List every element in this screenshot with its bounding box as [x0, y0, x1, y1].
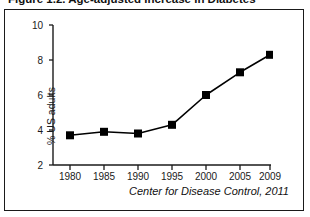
- x-tick-label-2009: 2009: [252, 171, 288, 182]
- chart-plot-svg: [49, 18, 273, 170]
- data-point-2005: [236, 68, 244, 76]
- x-tick-label-1980: 1980: [52, 171, 88, 182]
- plot-area: % US adults 10 8 6 4 2 1980 1985 1990 19…: [49, 18, 273, 168]
- source-caption: Center for Disease Control, 2011: [129, 185, 289, 198]
- data-point-1990: [134, 130, 142, 138]
- series-markers: [66, 51, 273, 140]
- y-tick-label-10: 10: [23, 20, 43, 31]
- x-tick-label-1990: 1990: [120, 171, 156, 182]
- y-tick-label-6: 6: [23, 90, 43, 101]
- figure-title: Figure 1.2. Age-adjusted increase in Dia…: [8, 0, 308, 7]
- y-tick-label-8: 8: [23, 55, 43, 66]
- x-tick-label-2000: 2000: [188, 171, 224, 182]
- figure-container: Figure 1.2. Age-adjusted increase in Dia…: [0, 0, 310, 217]
- chart-frame: % US adults 10 8 6 4 2 1980 1985 1990 19…: [4, 9, 304, 211]
- data-point-2000: [202, 91, 210, 99]
- x-tick-label-1985: 1985: [86, 171, 122, 182]
- data-point-2009: [266, 51, 273, 59]
- data-point-1995: [168, 121, 176, 129]
- data-point-1985: [100, 128, 108, 136]
- x-tick-label-1995: 1995: [154, 171, 190, 182]
- x-axis-ticks: [70, 165, 270, 170]
- y-tick-label-2: 2: [23, 160, 43, 171]
- y-tick-label-4: 4: [23, 125, 43, 136]
- data-point-1980: [66, 131, 74, 139]
